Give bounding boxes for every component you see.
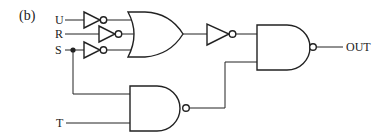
not-gate-s <box>84 42 107 58</box>
not-gate-u <box>84 12 107 28</box>
nand-gate-lower <box>130 86 189 131</box>
or-gate <box>128 12 183 57</box>
panel-label: (b) <box>19 8 36 24</box>
output-label: OUT <box>346 40 371 54</box>
nand-gate-output <box>257 25 316 70</box>
logic-circuit-diagram: (b) U R S T <box>0 0 386 139</box>
not-gate-or-output <box>207 24 236 45</box>
input-label-r: R <box>55 27 63 41</box>
input-label-u: U <box>55 13 64 27</box>
junction-dot <box>70 47 75 52</box>
input-label-s: S <box>55 43 62 57</box>
input-label-t: T <box>56 116 64 130</box>
not-gate-r <box>99 26 122 42</box>
